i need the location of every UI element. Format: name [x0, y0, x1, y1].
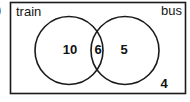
question-marker: ): [0, 3, 1, 17]
region-value-outside: 4: [156, 77, 172, 91]
region-value-intersection: 6: [89, 43, 107, 57]
venn-diagram-figure: ) train bus 10 6 5 4: [0, 0, 190, 102]
set-label-train: train: [16, 5, 41, 19]
set-label-bus: bus: [161, 4, 182, 18]
region-value-train-only: 10: [58, 43, 82, 57]
region-value-bus-only: 5: [114, 43, 134, 57]
